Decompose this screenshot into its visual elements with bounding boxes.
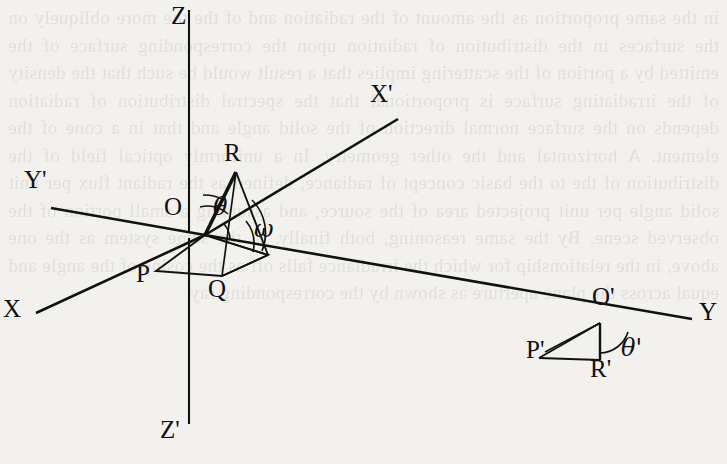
point-label-r-prime: R' [590,355,611,383]
angle-label-theta-prime: θ' [621,334,642,362]
point-label-o: O [164,193,182,221]
point-label-q: Q [208,275,226,303]
angle-label-theta: θ [213,193,227,221]
axis-label-z: Z [171,2,186,30]
geometry-figure: in the same proportion as the amount of … [0,0,727,464]
axis-label-y: Y [699,298,717,326]
diagram-lines [0,0,727,464]
point-label-r: R [224,139,241,167]
axis-label-z-prime: Z' [160,416,180,444]
angle-label-omega: ω [254,215,274,243]
axis-line-x [36,235,205,313]
angle-arc-omega-inner [246,221,254,252]
point-label-o-prime: O' [592,283,615,311]
axis-line-y [205,235,692,319]
segment-op-pp-upper [545,323,600,352]
axis-label-y-prime: Y' [24,166,47,194]
axis-label-x: X [3,295,21,323]
point-label-p: P [136,260,150,288]
segment-q-rightvertex [222,255,268,276]
axis-label-x-prime: X' [370,80,393,108]
base-parallelogram [156,235,268,276]
point-label-p-prime: P' [526,336,544,364]
